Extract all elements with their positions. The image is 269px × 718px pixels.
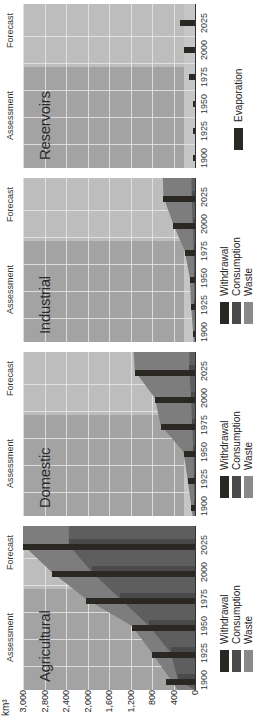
legend: WithdrawalConsumptionWaste (218, 237, 254, 324)
panel-title: Domestic (36, 448, 53, 508)
legend-swatch (232, 650, 241, 672)
legend-label: Consumption (231, 237, 242, 296)
withdrawal-bar (155, 397, 195, 403)
withdrawal-bar (132, 625, 195, 631)
x-tick-label: 1925 (199, 290, 209, 320)
y-axis-unit: km³ (0, 699, 11, 716)
assessment-label: Assessment (5, 613, 15, 662)
legend-item-waste: Waste (242, 585, 254, 672)
x-tick-label: 1900 (199, 491, 209, 521)
forecast-label: Forecast (5, 13, 15, 48)
x-tick-label: 2025 (199, 182, 209, 212)
withdrawal-bar (86, 598, 195, 604)
x-tick-label: 2025 (199, 8, 209, 38)
legend-swatch (244, 650, 253, 672)
legend-swatch (232, 476, 241, 498)
legend-swatch (220, 302, 229, 324)
legend-label: Withdrawal (219, 595, 230, 644)
y-tick-label: 3,000 (18, 690, 28, 718)
withdrawal-bar (152, 652, 195, 658)
consumption-fill (69, 526, 195, 690)
legend-item-withdrawal: Withdrawal (218, 585, 230, 672)
legend-item-evaporation: Evaporation (232, 69, 244, 150)
legend: Evaporation (232, 69, 244, 150)
rotated-chart-stage: km³ 04008001,2001,6002,0002,4002,8003,00… (0, 0, 269, 718)
legend-item-consumption: Consumption (230, 237, 242, 324)
consumption-bar (120, 593, 195, 598)
legend-item-consumption: Consumption (230, 411, 242, 498)
x-tick-label: 1975 (199, 584, 209, 614)
panel-title: Reservoirs (36, 91, 53, 160)
x-axis-line (195, 178, 196, 342)
withdrawal-bar (166, 679, 195, 685)
legend-label: Withdrawal (219, 421, 230, 470)
legend-swatch (232, 302, 241, 324)
evaporation-bar (180, 20, 195, 26)
consumption-bar (171, 647, 195, 652)
x-axis-line (195, 352, 196, 516)
waste-fill (163, 178, 195, 342)
x-tick-label: 1975 (199, 410, 209, 440)
x-tick-label: 1900 (199, 665, 209, 695)
x-tick-label: 1925 (199, 464, 209, 494)
legend-swatch (244, 476, 253, 498)
x-tick-label: 1950 (199, 611, 209, 641)
withdrawal-bar (23, 544, 195, 550)
withdrawal-bar (185, 250, 195, 256)
y-tick-label: 2,400 (61, 690, 71, 718)
withdrawal-bar (161, 424, 195, 430)
legend-item-withdrawal: Withdrawal (218, 411, 230, 498)
x-axis-line (195, 526, 196, 690)
legend-swatch (220, 650, 229, 672)
consumption-bar (149, 620, 195, 625)
legend-label: Withdrawal (219, 247, 230, 296)
withdrawal-bar (52, 571, 195, 577)
x-tick-label: 2000 (199, 35, 209, 65)
x-tick-label: 1950 (199, 263, 209, 293)
y-tick-label: 1,200 (126, 690, 136, 718)
assessment-label: Assessment (5, 265, 15, 314)
gridline (23, 36, 195, 37)
x-axis-line (195, 4, 196, 168)
x-tick-label: 2000 (199, 209, 209, 239)
panel-industrial: AssessmentForecastIndustrial190019251950… (0, 178, 269, 342)
consumption-bar (178, 674, 195, 679)
panel-reservoirs: AssessmentForecastReservoirs190019251950… (0, 4, 269, 168)
legend: WithdrawalConsumptionWaste (218, 585, 254, 672)
legend-swatch (234, 128, 243, 150)
withdrawal-bar (184, 451, 195, 457)
panel-title: Industrial (36, 276, 53, 334)
y-tick-label: 800 (147, 690, 157, 718)
forecast-label: Forecast (5, 361, 15, 396)
y-tick-label: 2,800 (40, 690, 50, 718)
x-tick-label: 1950 (199, 437, 209, 467)
gridline (23, 63, 195, 64)
y-tick-label: 2,000 (83, 690, 93, 718)
legend-label: Waste (243, 616, 254, 644)
legend-label: Consumption (231, 585, 242, 644)
y-tick-label: 400 (169, 690, 179, 718)
x-tick-label: 1900 (199, 317, 209, 347)
withdrawal-bar (163, 196, 195, 202)
legend-label: Consumption (231, 411, 242, 470)
forecast-label: Forecast (5, 535, 15, 570)
withdrawal-bar (188, 478, 195, 484)
legend-item-waste: Waste (242, 237, 254, 324)
legend-label: Waste (243, 442, 254, 470)
forecast-label: Forecast (5, 187, 15, 222)
legend-label: Evaporation (233, 69, 244, 122)
x-tick-label: 1975 (199, 62, 209, 92)
legend: WithdrawalConsumptionWaste (218, 411, 254, 498)
panel-title: Agricultural (36, 611, 53, 682)
panel-agricultural: AssessmentForecastAgricultural1900192519… (0, 526, 269, 690)
y-tick-label: 1,600 (104, 690, 114, 718)
x-tick-label: 2000 (199, 557, 209, 587)
legend-item-consumption: Consumption (230, 585, 242, 672)
withdrawal-bar (173, 223, 195, 229)
evaporation-bar (184, 47, 195, 53)
y-axis: km³ 04008001,2001,6002,0002,4002,8003,00… (0, 690, 269, 718)
x-tick-label: 2000 (199, 383, 209, 413)
x-tick-label: 1925 (199, 638, 209, 668)
consumption-bar (69, 539, 195, 544)
consumption-bar (92, 566, 195, 571)
